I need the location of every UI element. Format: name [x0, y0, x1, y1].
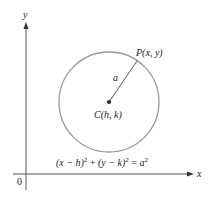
center-point-icon — [107, 100, 111, 104]
x-axis-arrow-icon — [187, 172, 194, 177]
circle-equation-diagram: y x 0 a P(x, y) C(h, k) (x − h)2 + (y − … — [0, 0, 214, 201]
equation-plus: + — [87, 157, 98, 168]
center-c-label: C(h, k) — [94, 109, 122, 121]
equation-equals: = — [129, 157, 140, 168]
origin-label: 0 — [17, 176, 22, 187]
y-axis-arrow-icon — [24, 22, 29, 29]
equation-exp3: 2 — [144, 156, 148, 164]
y-axis — [24, 22, 29, 190]
x-axis — [13, 172, 194, 177]
equation-lhs-part1: (x − h) — [56, 157, 85, 169]
equation-lhs-part2: (y − k) — [98, 157, 126, 169]
point-p-label: P(x, y) — [135, 47, 163, 59]
circle-equation: (x − h)2 + (y − k)2 = a2 — [56, 156, 148, 169]
x-axis-label: x — [196, 168, 202, 179]
radius-label: a — [113, 72, 118, 83]
y-axis-label: y — [22, 9, 28, 20]
